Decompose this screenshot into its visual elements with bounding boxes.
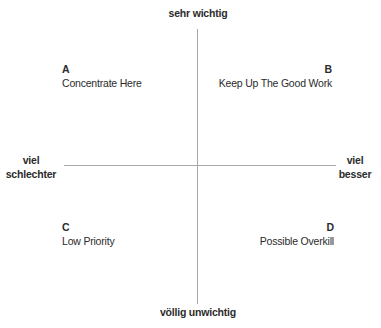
axis-label-left-line2: schlechter [6, 168, 57, 180]
quadrant-label: Possible Overkill [200, 234, 334, 248]
axis-label-left: viel schlechter [0, 153, 62, 181]
axis-label-top: sehr wichtig [140, 6, 256, 20]
axis-label-bottom: völlig unwichtig [140, 305, 256, 319]
axis-label-right: viel besser [330, 153, 380, 181]
quadrant-letter: C [62, 220, 114, 234]
quadrant-label: Low Priority [62, 234, 114, 248]
axis-label-right-line1: viel [347, 154, 364, 166]
quadrant-d: D Possible Overkill [200, 220, 334, 248]
quadrant-letter: B [200, 62, 332, 76]
quadrant-letter: A [62, 62, 142, 76]
quadrant-b: B Keep Up The Good Work [200, 62, 332, 90]
axis-label-right-line2: besser [339, 168, 372, 180]
quadrant-c: C Low Priority [62, 220, 114, 248]
quadrant-letter: D [200, 220, 334, 234]
quadrant-a: A Concentrate Here [62, 62, 142, 90]
horizontal-axis-line [64, 165, 336, 166]
quadrant-label: Keep Up The Good Work [200, 76, 332, 90]
axis-label-left-line1: viel [23, 154, 40, 166]
vertical-axis-line [197, 29, 198, 304]
quadrant-label: Concentrate Here [62, 76, 142, 90]
